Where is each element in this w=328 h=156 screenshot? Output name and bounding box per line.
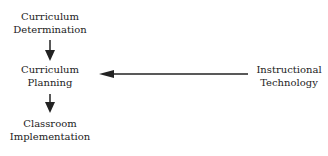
node-label-line1: Instructional	[250, 63, 328, 76]
node-label-line2: Implementation	[0, 130, 100, 143]
node-curriculum-determination: Curriculum Determination	[0, 10, 100, 36]
node-classroom-implementation: Classroom Implementation	[0, 117, 100, 143]
arrow-determination-to-planning	[45, 40, 55, 61]
node-curriculum-planning: Curriculum Planning	[0, 63, 100, 89]
node-label-line1: Curriculum	[0, 63, 100, 76]
node-label-line2: Planning	[0, 76, 100, 89]
node-label-line2: Technology	[250, 76, 328, 89]
arrow-technology-to-planning	[99, 70, 248, 78]
node-instructional-technology: Instructional Technology	[250, 63, 328, 89]
node-label-line2: Determination	[0, 23, 100, 36]
node-label-line1: Curriculum	[0, 10, 100, 23]
arrow-planning-to-implementation	[45, 94, 55, 113]
node-label-line1: Classroom	[0, 117, 100, 130]
